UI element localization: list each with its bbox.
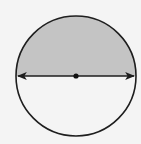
shaded-upper-semicircle xyxy=(16,16,136,76)
center-point xyxy=(73,73,78,78)
circle-diagram xyxy=(0,0,141,144)
diagram-canvas xyxy=(0,0,141,144)
